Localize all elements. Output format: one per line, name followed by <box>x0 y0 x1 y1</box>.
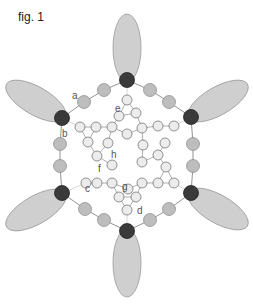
light-atom-node <box>153 121 163 131</box>
grey-atom-node <box>144 214 157 227</box>
grey-atom-node <box>54 160 67 173</box>
label-f: f <box>98 163 101 174</box>
grey-atom-node <box>163 96 176 109</box>
light-atom-node <box>122 95 132 105</box>
dark-atom-node <box>55 186 70 201</box>
grey-atom-node <box>98 84 111 97</box>
light-atom-node <box>169 121 179 131</box>
dark-atom-node <box>184 186 199 201</box>
dark-atom-node <box>120 73 135 88</box>
light-atom-node <box>160 138 170 148</box>
label-h: h <box>111 149 117 160</box>
dark-atom-node <box>120 224 135 239</box>
grey-atom-node <box>187 160 200 173</box>
light-atom-node <box>107 122 117 132</box>
light-atom-node <box>103 138 113 148</box>
light-atom-node <box>92 151 102 161</box>
light-atom-node <box>137 157 147 167</box>
dark-atom-node <box>55 111 70 126</box>
light-atom-node <box>91 122 101 132</box>
label-e: e <box>115 103 121 114</box>
grey-atom-node <box>78 96 91 109</box>
light-atom-node <box>75 122 85 132</box>
light-atom-node <box>131 108 141 118</box>
light-atom-node <box>169 178 179 188</box>
grey-atom-node <box>163 203 176 216</box>
light-atom-node <box>107 160 117 170</box>
light-atom-node <box>153 150 163 160</box>
label-c: c <box>85 183 90 194</box>
label-g: g <box>122 181 128 192</box>
light-atom-node <box>122 205 132 215</box>
light-atom-node <box>138 140 148 150</box>
orbital-lobes <box>0 14 253 297</box>
label-a: a <box>72 90 78 101</box>
light-atom-node <box>92 178 102 188</box>
molecular-structure-diagram: abcdefgh <box>0 0 253 306</box>
label-b: b <box>62 128 68 139</box>
lobe-shape <box>113 14 141 82</box>
light-atom-node <box>83 137 93 147</box>
light-atom-node <box>131 192 141 202</box>
grey-atom-node <box>98 214 111 227</box>
grey-atom-node <box>54 138 67 151</box>
light-atom-node <box>161 162 171 172</box>
light-atom-node <box>107 178 117 188</box>
label-d: d <box>137 205 143 216</box>
light-atom-node <box>153 178 163 188</box>
light-atom-node <box>114 192 124 202</box>
dark-atom-node <box>184 110 199 125</box>
light-atom-node <box>122 129 132 139</box>
lobe-shape <box>113 229 141 297</box>
grey-atom-node <box>187 138 200 151</box>
light-atom-node <box>137 123 147 133</box>
grey-atom-node <box>144 84 157 97</box>
grey-atom-node <box>79 203 92 216</box>
light-atom-node <box>137 178 147 188</box>
